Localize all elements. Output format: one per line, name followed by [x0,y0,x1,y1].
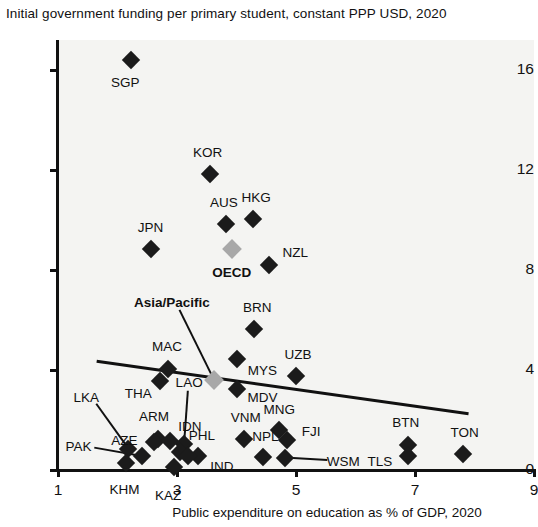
y-tick-label: 0 [500,460,534,478]
y-tick-label: 4 [500,360,534,378]
x-tick-mark [414,469,417,477]
data-point-label: FJI [302,424,321,439]
data-point-label: LKA [73,389,99,404]
data-point-label: WSM [327,453,360,468]
y-tick-label: 12 [500,160,534,178]
data-point-label: KHM [109,481,139,496]
data-point-label: MNG [264,402,296,417]
y-tick-mark [50,169,58,172]
data-point-label: ARM [139,408,169,423]
x-tick-label: 1 [54,481,63,499]
data-point-label: NPL [252,429,278,444]
x-tick-label: 5 [292,481,301,499]
data-point-label: TLS [367,454,392,469]
data-point-label: BRN [243,299,272,314]
chart-title: Initial government funding per primary s… [6,6,447,21]
data-point-label: LAO [176,374,203,389]
data-point-label: HKG [242,189,271,204]
data-point-label: SGP [111,75,140,90]
data-point-label: Asia/Pacific [134,295,210,310]
x-tick-mark [295,469,298,477]
y-tick-label: 16 [500,60,534,78]
data-point-label: UZB [285,347,312,362]
data-point-label: NZL [282,245,308,260]
data-point-label: KAZ [155,488,181,503]
data-point-label: THA [125,386,152,401]
x-tick-mark [533,469,536,477]
data-point-label: KOR [193,144,222,159]
y-tick-mark [50,369,58,372]
data-point-label: AZE [111,433,137,448]
y-tick-mark [50,69,58,72]
x-tick-label: 7 [411,481,420,499]
x-tick-label: 9 [530,481,538,499]
data-point-label: PAK [65,439,91,454]
data-point-label: OECD [212,264,251,279]
y-tick-mark [50,269,58,272]
data-point-label: PHL [189,428,215,443]
x-axis-title: Public expenditure on education as % of … [0,505,534,520]
x-tick-mark [57,469,60,477]
data-point-label: MAC [152,338,182,353]
data-point-label: JPN [138,219,164,234]
data-point-label: TON [450,424,478,439]
data-point-label: VNM [231,409,261,424]
data-point-label: BTN [392,415,419,430]
data-point-label: AUS [210,194,238,209]
y-tick-label: 8 [500,260,534,278]
data-point-label: IND [210,459,233,474]
y-axis-line [56,40,59,472]
data-point-label: MYS [248,362,277,377]
